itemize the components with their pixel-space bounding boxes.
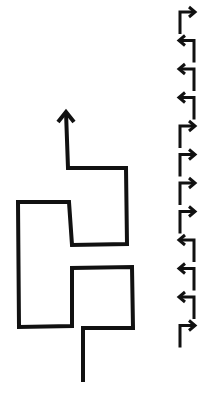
turn-left-icon [179, 64, 194, 91]
turn-right-icon [180, 321, 195, 348]
turn-left-icon [179, 235, 194, 262]
turn-right-icon [180, 178, 195, 205]
turn-right-icon [180, 121, 195, 148]
turn-left-icon [179, 93, 194, 120]
turn-right-icon [180, 150, 195, 177]
maze-path [18, 112, 133, 382]
turn-left-icon [179, 264, 194, 291]
turn-right-icon [180, 207, 195, 234]
turn-left-icon [179, 36, 194, 63]
turn-left-icon [179, 292, 194, 319]
path-diagram [0, 0, 215, 394]
turn-arrow-list [179, 7, 195, 348]
turn-right-icon [180, 7, 195, 34]
